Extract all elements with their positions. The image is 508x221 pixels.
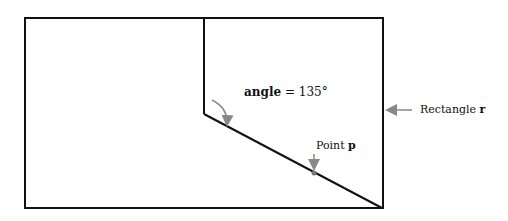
rectangle-label: Rectangle r xyxy=(420,103,485,116)
angle-label-name: angle xyxy=(244,85,281,99)
rectangle-label-prefix: Rectangle xyxy=(420,103,480,116)
point-label-var: p xyxy=(348,139,356,152)
angle-label: angle = 135° xyxy=(244,85,328,99)
rectangle-label-var: r xyxy=(480,103,486,116)
angle-label-value: = 135° xyxy=(281,85,328,99)
point-p-marker xyxy=(312,171,317,176)
point-label: Point p xyxy=(316,139,356,152)
point-label-prefix: Point xyxy=(316,139,348,152)
diagonal-segment xyxy=(204,114,382,208)
